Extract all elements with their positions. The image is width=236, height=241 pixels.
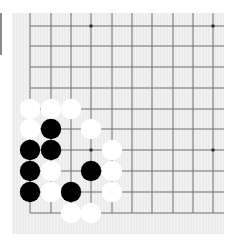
white-stone — [102, 161, 122, 181]
white-stone — [41, 182, 61, 202]
white-stone — [41, 161, 61, 181]
star-point — [211, 24, 215, 28]
white-stone — [20, 119, 40, 139]
board-grid[interactable] — [0, 0, 236, 241]
black-stone — [20, 161, 40, 181]
white-stone — [102, 140, 122, 160]
white-stone — [20, 99, 40, 119]
white-stone — [102, 182, 122, 202]
black-stone — [20, 182, 40, 202]
black-stone — [20, 140, 40, 160]
black-stone — [41, 140, 61, 160]
white-stone — [61, 203, 81, 223]
white-stone — [41, 99, 61, 119]
star-point — [89, 24, 93, 28]
white-stone — [61, 99, 81, 119]
white-stone — [81, 203, 101, 223]
black-stone — [61, 182, 81, 202]
star-point — [211, 148, 215, 152]
star-point — [89, 148, 93, 152]
black-stone — [81, 161, 101, 181]
black-stone — [41, 119, 61, 139]
white-stone — [81, 119, 101, 139]
